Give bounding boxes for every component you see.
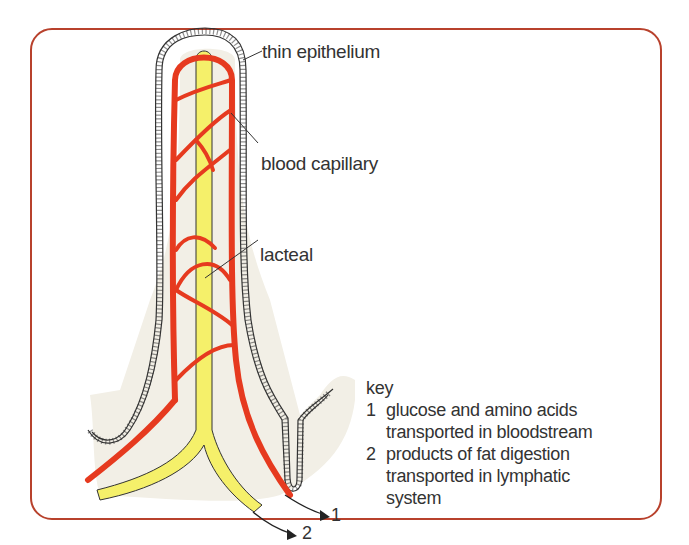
arrow-1-label: 1 — [331, 505, 341, 526]
arrow-2-head — [287, 529, 297, 540]
key-item-1-number: 1 — [366, 399, 386, 421]
arrow-1 — [285, 495, 325, 515]
key-item-2-line2: transported in lymphatic — [366, 465, 592, 487]
key-legend: key 1 glucose and amino acids transporte… — [366, 377, 592, 509]
arrow-2-label: 2 — [302, 523, 312, 544]
key-item-2-number: 2 — [366, 443, 386, 465]
key-item-1: 1 glucose and amino acids — [366, 399, 592, 421]
key-item-1-line2: transported in bloodstream — [366, 421, 592, 443]
key-item-2-line1: products of fat digestion — [386, 443, 570, 465]
label-blood-capillary: blood capillary — [261, 153, 378, 175]
key-item-1-line1: glucose and amino acids — [386, 399, 577, 421]
label-thin-epithelium: thin epithelium — [262, 41, 380, 63]
leader-thin-epithelium — [243, 51, 262, 60]
arrow-1-head — [320, 510, 330, 521]
label-lacteal: lacteal — [260, 244, 313, 266]
key-item-2-line3: system — [366, 487, 592, 509]
key-item-2: 2 products of fat digestion — [366, 443, 592, 465]
key-heading: key — [366, 377, 592, 399]
arrow-2 — [253, 512, 292, 534]
